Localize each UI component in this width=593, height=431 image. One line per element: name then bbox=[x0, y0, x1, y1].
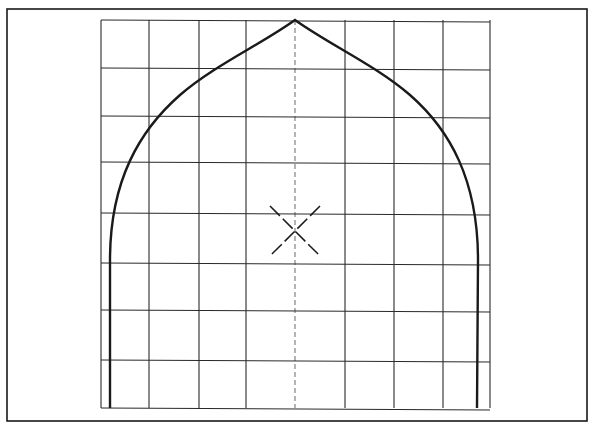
outer-frame bbox=[7, 9, 587, 421]
arch-diagram bbox=[0, 0, 593, 431]
grid bbox=[101, 20, 490, 410]
